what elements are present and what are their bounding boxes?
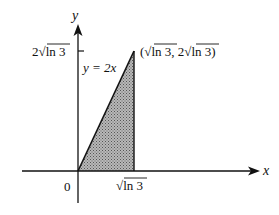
origin-label: 0	[64, 179, 71, 194]
line-equation-label: y = 2x	[81, 60, 117, 75]
x-axis-label: x	[262, 163, 270, 178]
x-tick-label: √ln 3	[116, 178, 143, 193]
diagram-canvas: y x 0 2√ln 3 √ln 3 y = 2x (√ln 3, 2√ln 3…	[0, 0, 279, 215]
y-axis-label: y	[70, 8, 79, 23]
y-tick-label: 2√ln 3	[32, 44, 66, 59]
point-label: (√ln 3, 2√ln 3)	[140, 44, 216, 59]
